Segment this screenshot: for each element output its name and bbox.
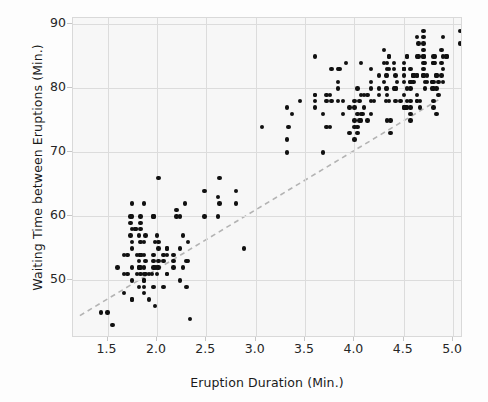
data-point <box>217 201 221 205</box>
data-point <box>425 80 429 84</box>
y-tick-label: 50 <box>10 271 66 286</box>
data-point <box>329 67 333 71</box>
data-point <box>431 105 435 109</box>
data-point <box>439 48 443 52</box>
data-point <box>416 41 420 45</box>
y-tick-mark <box>67 215 72 216</box>
data-point <box>138 253 142 257</box>
data-point <box>347 131 351 135</box>
y-tick-mark <box>67 87 72 88</box>
data-point <box>133 227 137 231</box>
data-point <box>347 105 351 109</box>
data-point <box>423 86 427 90</box>
data-point <box>402 93 406 97</box>
data-point <box>178 246 182 250</box>
data-point <box>377 86 381 90</box>
data-point <box>165 246 169 250</box>
data-point <box>357 99 361 103</box>
data-point <box>151 214 155 218</box>
data-point <box>147 297 151 301</box>
data-point <box>393 73 397 77</box>
data-point <box>328 93 332 97</box>
data-point <box>324 125 328 129</box>
data-point <box>436 93 440 97</box>
data-point <box>110 323 114 327</box>
data-point <box>142 201 146 205</box>
data-point <box>384 73 388 77</box>
data-point <box>174 208 178 212</box>
data-point <box>321 150 325 154</box>
data-point <box>216 214 220 218</box>
data-point <box>402 73 406 77</box>
data-point <box>436 80 440 84</box>
data-point <box>188 317 192 321</box>
y-tick-mark <box>67 23 72 24</box>
data-point <box>421 29 425 33</box>
data-point <box>115 265 119 269</box>
data-point <box>143 272 147 276</box>
scatter-plot-figure: Waiting Time between Eruptions (Min.) Er… <box>0 0 488 402</box>
data-point <box>202 189 206 193</box>
data-point <box>408 105 412 109</box>
x-gridline <box>354 18 355 336</box>
data-point <box>336 86 340 90</box>
data-point <box>352 125 356 129</box>
data-point <box>405 54 409 58</box>
data-point <box>161 253 165 257</box>
data-point <box>352 105 356 109</box>
data-point <box>242 246 246 250</box>
data-point <box>408 118 412 122</box>
data-point <box>285 137 289 141</box>
data-point <box>439 61 443 65</box>
data-point <box>421 73 425 77</box>
data-point <box>217 176 221 180</box>
data-point <box>431 99 435 103</box>
data-point <box>408 80 412 84</box>
data-point <box>286 125 290 129</box>
data-point <box>130 246 134 250</box>
data-point <box>137 265 141 269</box>
data-point <box>285 150 289 154</box>
data-point <box>392 86 396 90</box>
x-gridline <box>404 18 405 336</box>
x-gridline <box>206 18 207 336</box>
data-point <box>369 86 373 90</box>
plot-area <box>72 17 462 337</box>
y-tick-label: 70 <box>10 143 66 158</box>
y-tick-label: 60 <box>10 207 66 222</box>
data-point <box>408 112 412 116</box>
y-tick-mark <box>67 279 72 280</box>
x-axis-title: Eruption Duration (Min.) <box>72 375 462 390</box>
data-point <box>142 265 146 269</box>
data-point <box>142 285 146 289</box>
y-tick-mark <box>67 151 72 152</box>
data-point <box>130 278 134 282</box>
data-point <box>430 86 434 90</box>
data-point <box>402 61 406 65</box>
data-point <box>458 41 462 45</box>
data-point <box>156 176 160 180</box>
data-point <box>388 118 392 122</box>
data-point <box>174 214 178 218</box>
data-point <box>99 310 103 314</box>
data-point <box>234 189 238 193</box>
y-axis-title: Waiting Time between Eruptions (Min.) <box>30 28 45 308</box>
data-point <box>352 99 356 103</box>
data-point <box>408 99 412 103</box>
data-point <box>128 221 132 225</box>
y-gridline <box>73 24 461 25</box>
data-point <box>171 265 175 269</box>
data-point <box>434 73 438 77</box>
data-point <box>137 285 141 289</box>
data-point <box>324 99 328 103</box>
data-point <box>313 105 317 109</box>
data-point <box>352 137 356 141</box>
x-gridline <box>453 18 454 336</box>
data-point <box>402 105 406 109</box>
data-point <box>421 48 425 52</box>
data-point <box>178 278 182 282</box>
data-point <box>234 201 238 205</box>
data-point <box>377 73 381 77</box>
data-point <box>138 214 142 218</box>
data-point <box>313 54 317 58</box>
